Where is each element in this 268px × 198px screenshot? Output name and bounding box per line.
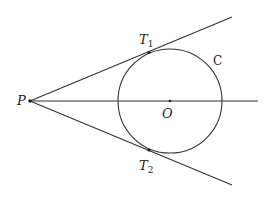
tangent-diagram: P O C T1 T2 — [0, 0, 268, 198]
tangent-line-lower — [30, 101, 232, 185]
point-T2 — [147, 148, 150, 151]
point-T1 — [147, 51, 150, 54]
tangent-line-upper — [30, 17, 232, 101]
label-T2: T2 — [139, 158, 153, 175]
point-P — [28, 99, 32, 103]
label-P: P — [16, 93, 26, 108]
label-C: C — [213, 54, 222, 68]
label-T1: T1 — [139, 32, 153, 49]
point-O — [169, 100, 172, 103]
label-O: O — [162, 106, 173, 121]
